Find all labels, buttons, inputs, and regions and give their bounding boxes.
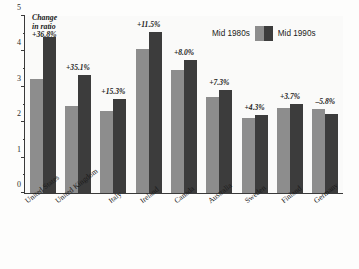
pct-change-label: +11.5%	[137, 20, 161, 29]
bar-group: +7.3%	[202, 16, 237, 193]
pct-change-label: +3.7%	[280, 92, 300, 101]
x-label-cell: Finland	[272, 196, 307, 266]
pct-change-label: +15.3%	[101, 87, 125, 96]
bar-mid-1980s	[100, 111, 113, 193]
bar-group: +15.3%	[96, 16, 131, 193]
y-tick-label: 1	[17, 144, 25, 153]
callout-line-3: +36.8%	[32, 31, 84, 40]
x-label-cell: Germany	[308, 196, 343, 266]
x-label-cell: United Kingdom	[59, 196, 94, 266]
x-label-cell: Australia	[201, 196, 236, 266]
bar-mid-1990s	[43, 37, 56, 193]
legend-label-mid-1990s: Mid 1990s	[278, 29, 316, 38]
bar-groups: +36.8%+35.1%+15.3%+11.5%+8.0%+7.3%+4.3%+…	[25, 16, 343, 193]
legend-swatches	[255, 26, 273, 41]
y-tick-label: 5	[17, 3, 25, 12]
legend: Mid 1980s Mid 1990s	[212, 26, 316, 41]
bar-group: +35.1%	[60, 16, 95, 193]
bar-mid-1990s	[290, 104, 303, 193]
legend-swatch-mid-1980s	[255, 26, 264, 41]
bar-mid-1990s	[219, 90, 232, 193]
legend-label-mid-1980s: Mid 1980s	[212, 29, 250, 38]
x-axis-labels: United StatesUnited KingdomItalyIrelandC…	[24, 196, 343, 266]
legend-swatch-mid-1990s	[264, 26, 273, 41]
bar-mid-1980s	[136, 49, 149, 193]
x-label-cell: Sweden	[237, 196, 272, 266]
x-label-cell: Canada	[166, 196, 201, 266]
bar-group: +3.7%	[272, 16, 307, 193]
bar-mid-1980s	[206, 97, 219, 193]
pct-change-label: +8.0%	[174, 48, 194, 57]
bar-mid-1990s	[149, 32, 162, 193]
x-label-cell: United States	[24, 196, 59, 266]
bar-mid-1980s	[171, 70, 184, 193]
y-tick-label: 2	[17, 109, 25, 118]
bar-group: +36.8%	[25, 16, 60, 193]
pct-change-label: +7.3%	[209, 78, 229, 87]
pct-change-label: +4.3%	[245, 103, 265, 112]
bar-chart: 012345 +36.8%+35.1%+15.3%+11.5%+8.0%+7.3…	[0, 0, 359, 269]
bar-mid-1990s	[255, 115, 268, 193]
bar-mid-1980s	[242, 118, 255, 193]
bar-mid-1980s	[312, 109, 325, 193]
x-label-cell: Italy	[95, 196, 130, 266]
x-label-cell: Ireland	[130, 196, 165, 266]
pct-change-label: +35.1%	[66, 63, 90, 72]
y-tick-label: 0	[17, 180, 25, 189]
bar-mid-1990s	[184, 60, 197, 193]
bar-group: –5.8%	[308, 16, 343, 193]
y-tick-label: 4	[17, 38, 25, 47]
bar-group: +11.5%	[131, 16, 166, 193]
bar-mid-1980s	[30, 79, 43, 193]
y-tick-label: 3	[17, 73, 25, 82]
bar-mid-1980s	[277, 108, 290, 193]
plot-area: 012345 +36.8%+35.1%+15.3%+11.5%+8.0%+7.3…	[24, 16, 343, 194]
bar-group: +8.0%	[166, 16, 201, 193]
pct-change-label: –5.8%	[315, 97, 335, 106]
bar-group: +4.3%	[237, 16, 272, 193]
bar-mid-1990s	[113, 99, 126, 193]
change-in-ratio-callout: Change in ratio +36.8%	[32, 14, 84, 40]
